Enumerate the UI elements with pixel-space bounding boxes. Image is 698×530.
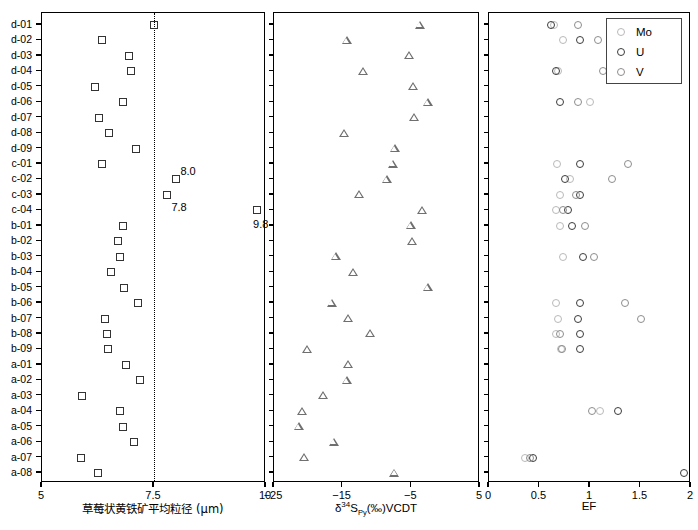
data-point-d34s-a-01[interactable] [343, 360, 353, 368]
data-point-ef-V-b-06[interactable] [621, 299, 629, 307]
data-point-d34s-b-03[interactable] [331, 252, 341, 260]
data-point-d34s-c-01[interactable] [388, 160, 398, 168]
data-point-d34s-a-03[interactable] [318, 391, 328, 399]
data-point-d34s-a-05[interactable] [294, 422, 304, 430]
data-point-d34s-b-05[interactable] [423, 283, 433, 291]
data-point-d34s-c-04[interactable] [417, 206, 427, 214]
data-point-ef-V-b-07[interactable] [637, 315, 645, 323]
data-point-grain-d-06[interactable] [119, 98, 127, 106]
y-tick-a-03 [484, 394, 488, 395]
data-point-ef-Mo-b-01[interactable] [556, 222, 564, 230]
data-point-ef-V-c-02[interactable] [608, 175, 616, 183]
data-point-d34s-d-06[interactable] [423, 98, 433, 106]
data-point-ef-Mo-b-06[interactable] [552, 299, 560, 307]
data-point-d34s-c-02[interactable] [382, 175, 392, 183]
data-point-ef-U-b-03[interactable] [579, 253, 587, 261]
data-point-grain-b-09[interactable] [104, 345, 112, 353]
data-point-ef-Mo-d-02[interactable] [559, 36, 567, 44]
data-point-grain-c-04[interactable] [253, 206, 261, 214]
data-point-ef-V-b-01[interactable] [581, 222, 589, 230]
data-point-grain-b-05[interactable] [120, 284, 128, 292]
data-point-grain-d-09[interactable] [132, 145, 140, 153]
data-point-d34s-a-07[interactable] [299, 453, 309, 461]
data-point-d34s-d-04[interactable] [358, 67, 368, 75]
data-point-ef-V-d-06[interactable] [574, 98, 582, 106]
data-point-d34s-b-02[interactable] [407, 237, 417, 245]
data-point-grain-d-02[interactable] [98, 36, 106, 44]
data-point-d34s-d-09[interactable] [390, 144, 400, 152]
data-point-ef-Mo-c-03[interactable] [556, 191, 564, 199]
data-point-grain-d-01[interactable] [150, 21, 158, 29]
data-point-d34s-b-07[interactable] [343, 314, 353, 322]
data-point-d34s-b-06[interactable] [327, 299, 337, 307]
data-point-d34s-a-08[interactable] [389, 469, 399, 477]
data-point-d34s-a-02[interactable] [342, 376, 352, 384]
data-point-grain-b-02[interactable] [114, 237, 122, 245]
data-point-ef-Mo-b-03[interactable] [559, 253, 567, 261]
data-point-grain-a-04[interactable] [116, 407, 124, 415]
data-point-ef-U-b-06[interactable] [576, 299, 584, 307]
data-point-grain-b-01[interactable] [119, 222, 127, 230]
data-point-ef-U-b-01[interactable] [568, 222, 576, 230]
data-point-d34s-d-02[interactable] [342, 36, 352, 44]
data-point-ef-V-b-09[interactable] [558, 345, 566, 353]
data-point-d34s-c-03[interactable] [354, 190, 364, 198]
data-point-d34s-d-07[interactable] [409, 113, 419, 121]
data-point-grain-a-02[interactable] [136, 376, 144, 384]
data-point-ef-Mo-c-01[interactable] [553, 160, 561, 168]
data-point-d34s-b-04[interactable] [348, 268, 358, 276]
legend-row-v[interactable]: V [617, 65, 644, 79]
data-point-ef-U-d-01[interactable] [547, 21, 555, 29]
data-point-ef-Mo-a-04[interactable] [596, 407, 604, 415]
legend-row-u[interactable]: U [617, 45, 644, 59]
data-point-ef-U-b-08[interactable] [576, 330, 584, 338]
legend-row-mo[interactable]: Mo [617, 25, 652, 39]
data-point-ef-U-a-08[interactable] [680, 469, 688, 477]
data-point-grain-c-02[interactable] [172, 175, 180, 183]
data-point-grain-d-07[interactable] [95, 114, 103, 122]
data-point-ef-V-d-01[interactable] [574, 21, 582, 29]
data-point-grain-a-01[interactable] [122, 361, 130, 369]
data-point-grain-d-05[interactable] [91, 83, 99, 91]
data-point-ef-U-d-02[interactable] [576, 36, 584, 44]
data-point-grain-c-03[interactable] [163, 191, 171, 199]
data-point-ef-U-b-09[interactable] [576, 345, 584, 353]
data-point-grain-c-01[interactable] [98, 160, 106, 168]
data-point-ef-V-c-01[interactable] [624, 160, 632, 168]
data-point-grain-b-06[interactable] [134, 299, 142, 307]
data-point-d34s-d-05[interactable] [408, 82, 418, 90]
data-point-grain-a-06[interactable] [130, 438, 138, 446]
data-point-grain-d-04[interactable] [127, 67, 135, 75]
data-point-grain-a-05[interactable] [119, 423, 127, 431]
data-point-d34s-d-01[interactable] [415, 21, 425, 29]
data-point-d34s-b-01[interactable] [406, 221, 416, 229]
data-point-grain-b-03[interactable] [116, 253, 124, 261]
data-point-ef-U-b-07[interactable] [574, 315, 582, 323]
data-point-ef-V-c-03[interactable] [572, 191, 580, 199]
data-point-d34s-d-03[interactable] [404, 51, 414, 59]
data-point-ef-U-c-01[interactable] [576, 160, 584, 168]
data-point-grain-a-07[interactable] [77, 454, 85, 462]
data-point-ef-U-d-04[interactable] [552, 67, 560, 75]
data-point-grain-d-08[interactable] [105, 129, 113, 137]
data-point-grain-d-03[interactable] [125, 52, 133, 60]
data-point-ef-U-d-06[interactable] [556, 98, 564, 106]
data-point-grain-a-08[interactable] [94, 469, 102, 477]
data-point-d34s-b-09[interactable] [302, 345, 312, 353]
data-point-grain-b-04[interactable] [107, 268, 115, 276]
data-point-d34s-a-04[interactable] [297, 407, 307, 415]
data-point-ef-V-a-07[interactable] [526, 454, 534, 462]
data-point-ef-Mo-b-07[interactable] [554, 315, 562, 323]
data-point-ef-V-b-08[interactable] [556, 330, 564, 338]
data-point-d34s-d-08[interactable] [339, 129, 349, 137]
data-point-grain-b-08[interactable] [103, 330, 111, 338]
data-point-ef-V-a-04[interactable] [588, 407, 596, 415]
data-point-grain-a-03[interactable] [78, 392, 86, 400]
data-point-d34s-a-06[interactable] [329, 438, 339, 446]
data-point-ef-V-d-02[interactable] [594, 36, 602, 44]
data-point-ef-Mo-d-06[interactable] [586, 98, 594, 106]
data-point-grain-b-07[interactable] [101, 315, 109, 323]
data-point-d34s-b-08[interactable] [365, 329, 375, 337]
data-point-ef-U-a-04[interactable] [614, 407, 622, 415]
data-point-ef-V-b-03[interactable] [590, 253, 598, 261]
